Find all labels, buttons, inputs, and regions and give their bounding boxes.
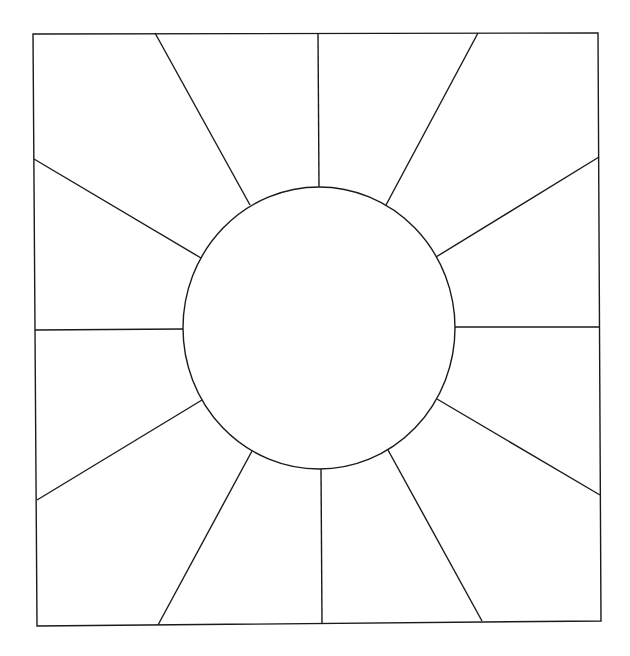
center-circle xyxy=(183,187,455,469)
ray-w xyxy=(35,329,183,330)
diagram-canvas xyxy=(0,0,630,656)
ray-s xyxy=(321,469,322,623)
ray-n xyxy=(318,33,319,187)
sun-diagram xyxy=(0,0,630,656)
